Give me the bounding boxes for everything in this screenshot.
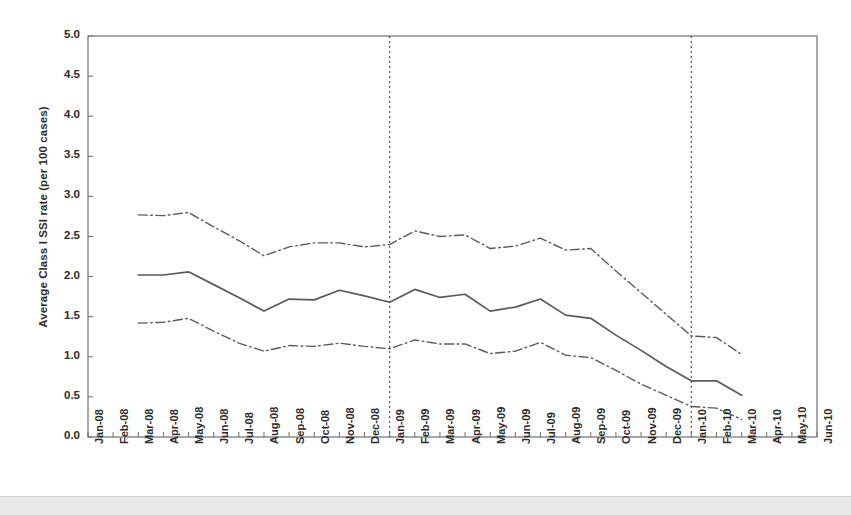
x-axis-tick-label: Jan-10	[696, 409, 708, 444]
x-axis-tick-label: Jun-09	[520, 409, 532, 444]
x-axis-tick-label: Jul-09	[545, 412, 557, 444]
y-axis-tick-label: 1.5	[46, 309, 80, 321]
x-axis-tick-label: Apr-10	[771, 409, 783, 444]
y-axis-tick-label: 4.5	[46, 68, 80, 80]
y-axis-tick-label: 2.0	[46, 269, 80, 281]
x-axis-tick-label: Mar-10	[746, 409, 758, 444]
x-axis-tick-label: Oct-09	[620, 410, 632, 444]
series-line-1	[138, 272, 741, 396]
x-axis-tick-label: Jul-08	[243, 412, 255, 444]
x-axis-tick-label: Sep-09	[595, 408, 607, 444]
y-axis-tick-label: 4.0	[46, 108, 80, 120]
x-axis-tick-label: May-09	[495, 407, 507, 444]
x-axis-tick-label: Sep-08	[294, 408, 306, 444]
x-axis-tick-label: Aug-08	[268, 407, 280, 444]
y-axis-tick-label: 0.5	[46, 389, 80, 401]
x-axis-tick-label: Apr-08	[168, 409, 180, 444]
x-axis-tick-label: Mar-09	[444, 409, 456, 444]
plot-frame	[88, 36, 817, 437]
y-axis-tick-label: 3.5	[46, 148, 80, 160]
x-axis-tick-label: Nov-09	[646, 407, 658, 444]
x-axis-tick-label: Jan-09	[394, 409, 406, 444]
chart-figure: Average Class I SSI rate (per 100 cases)…	[0, 0, 851, 496]
x-axis-tick-label: Jun-10	[822, 409, 834, 444]
y-axis-tick-label: 2.5	[46, 229, 80, 241]
x-axis-tick-label: May-10	[796, 407, 808, 444]
x-axis-tick-label: Nov-08	[344, 407, 356, 444]
y-axis-tick-label: 1.0	[46, 349, 80, 361]
x-axis-tick-label: Jun-08	[218, 409, 230, 444]
x-axis-tick-label: Feb-08	[118, 409, 130, 444]
x-axis-tick-label: Dec-09	[671, 408, 683, 444]
x-axis-tick-label: Mar-08	[143, 409, 155, 444]
x-axis-tick-label: Feb-10	[721, 409, 733, 444]
x-axis-tick-label: Aug-09	[570, 407, 582, 444]
y-axis-tick-label: 0.0	[46, 429, 80, 441]
x-axis-tick-label: May-08	[193, 407, 205, 444]
y-axis-tick-label: 5.0	[46, 28, 80, 40]
scan-artifact-band	[0, 496, 851, 515]
series-line-0	[138, 212, 741, 354]
series-line-2	[138, 318, 741, 419]
y-axis-tick-label: 3.0	[46, 188, 80, 200]
x-axis-tick-label: Oct-08	[319, 410, 331, 444]
x-axis-tick-label: Dec-08	[369, 408, 381, 444]
x-axis-tick-label: Feb-09	[419, 409, 431, 444]
x-axis-tick-label: Apr-09	[470, 409, 482, 444]
x-axis-tick-label: Jan-08	[93, 409, 105, 444]
